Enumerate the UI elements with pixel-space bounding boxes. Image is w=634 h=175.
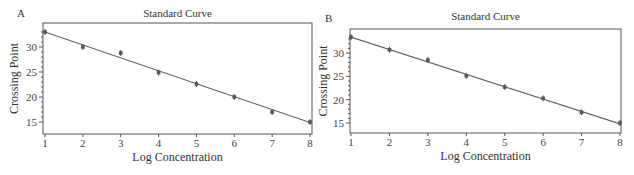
y-tick-label: 25 bbox=[333, 70, 345, 82]
chart-title: Standard Curve bbox=[451, 10, 520, 22]
data-point-marker bbox=[81, 45, 85, 49]
x-tick-label: 5 bbox=[502, 136, 508, 148]
data-point-marker bbox=[426, 58, 430, 62]
y-tick-label: 30 bbox=[26, 41, 38, 53]
plot-frame bbox=[43, 23, 312, 134]
data-point-marker bbox=[195, 82, 199, 86]
x-tick-label: 6 bbox=[232, 137, 238, 149]
x-tick-label: 1 bbox=[42, 137, 48, 149]
x-tick-label: 7 bbox=[579, 136, 585, 148]
data-point-marker bbox=[119, 51, 123, 55]
data-point-marker bbox=[618, 121, 622, 125]
data-point-marker bbox=[464, 74, 468, 78]
data-point-marker bbox=[270, 110, 274, 114]
y-axis-label: Crossing Point bbox=[7, 42, 21, 114]
panel-label: A bbox=[17, 7, 25, 19]
x-tick-label: 3 bbox=[425, 136, 431, 148]
figure: AStandard Curve1234567815202530Log Conce… bbox=[0, 0, 634, 175]
y-tick-label: 20 bbox=[26, 91, 38, 103]
x-tick-label: 4 bbox=[156, 137, 162, 149]
x-tick-label: 8 bbox=[307, 137, 313, 149]
data-point-marker bbox=[43, 30, 47, 34]
y-tick-label: 15 bbox=[333, 117, 345, 129]
x-tick-label: 2 bbox=[387, 136, 393, 148]
x-tick-label: 1 bbox=[348, 136, 354, 148]
x-tick-label: 8 bbox=[617, 136, 623, 148]
x-tick-label: 4 bbox=[464, 136, 470, 148]
data-point-marker bbox=[232, 95, 236, 99]
y-tick-label: 25 bbox=[26, 66, 38, 78]
x-tick-label: 6 bbox=[540, 136, 546, 148]
chart-title: Standard Curve bbox=[143, 7, 212, 19]
chart-panel-b: BStandard Curve1234567815202530Log Conce… bbox=[316, 10, 623, 163]
data-point-marker bbox=[157, 71, 161, 75]
panel-label: B bbox=[325, 12, 332, 24]
data-point-marker bbox=[388, 48, 392, 52]
data-point-marker bbox=[580, 110, 584, 114]
fit-line bbox=[351, 37, 620, 124]
data-point-marker bbox=[541, 96, 545, 100]
y-tick-label: 20 bbox=[333, 94, 345, 106]
x-tick-label: 7 bbox=[269, 137, 275, 149]
data-point-marker bbox=[349, 35, 353, 39]
fit-line bbox=[45, 32, 310, 123]
data-point-marker bbox=[503, 85, 507, 89]
chart-panel-a: AStandard Curve1234567815202530Log Conce… bbox=[7, 7, 313, 164]
x-axis-label: Log Concentration bbox=[132, 150, 222, 164]
x-axis-label: Log Concentration bbox=[440, 149, 530, 163]
data-point-marker bbox=[308, 120, 312, 124]
y-axis-label: Crossing Point bbox=[316, 45, 330, 117]
x-tick-label: 2 bbox=[80, 137, 86, 149]
y-tick-label: 15 bbox=[26, 116, 38, 128]
x-tick-label: 5 bbox=[194, 137, 200, 149]
x-tick-label: 3 bbox=[118, 137, 124, 149]
y-tick-label: 30 bbox=[333, 47, 345, 59]
